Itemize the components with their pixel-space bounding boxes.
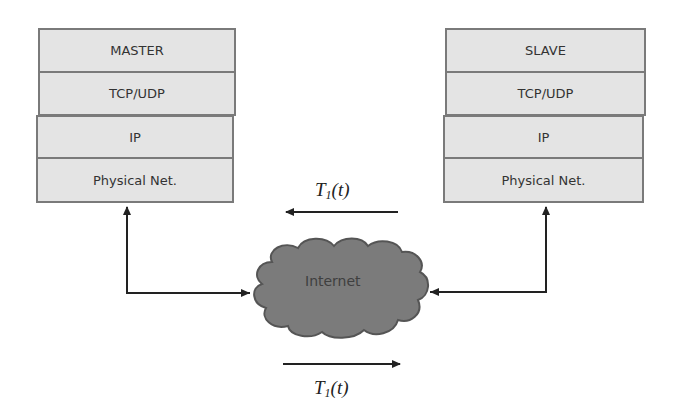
master-layer-network: IP <box>36 115 234 159</box>
master-link-connector <box>127 207 250 293</box>
top-arrow-label: T1(t) <box>315 179 350 203</box>
bottom-label-main: T <box>314 377 325 398</box>
bottom-label-tail: (t) <box>331 377 349 398</box>
internet-label: Internet <box>305 273 361 289</box>
bottom-arrow-label: T1(t) <box>314 377 349 401</box>
top-label-tail: (t) <box>332 179 350 200</box>
master-layer-transport: TCP/UDP <box>38 71 236 116</box>
slave-layer-physical: Physical Net. <box>443 157 644 203</box>
slave-layer-network: IP <box>443 115 644 159</box>
top-label-main: T <box>315 179 326 200</box>
master-layer-physical: Physical Net. <box>36 157 234 203</box>
slave-link-connector <box>430 207 546 292</box>
master-layer-application: MASTER <box>38 28 236 73</box>
slave-layer-transport: TCP/UDP <box>445 71 646 116</box>
slave-layer-application: SLAVE <box>445 28 646 73</box>
